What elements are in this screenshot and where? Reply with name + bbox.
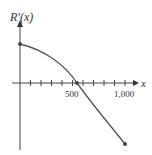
x-axis-arrow-icon (133, 80, 139, 86)
x-axis-label: x (140, 77, 146, 89)
zero-crossing-point (75, 81, 79, 85)
tick-label-500: 500 (65, 89, 79, 99)
y-axis-label: R′(x) (9, 10, 33, 24)
end-point (123, 142, 127, 146)
chart-area: R′(x) x 500 1,000 (0, 0, 152, 155)
tick-label-1000: 1,000 (114, 89, 135, 99)
start-point (18, 42, 22, 46)
